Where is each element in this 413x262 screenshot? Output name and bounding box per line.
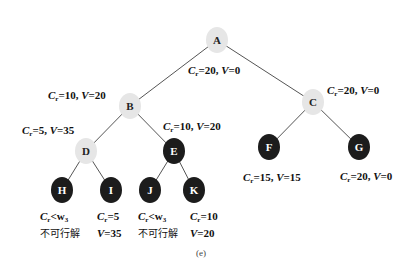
label-H: Cr<w3 不可行解: [40, 210, 80, 240]
label-J: Cr<w3 不可行解: [138, 210, 178, 240]
label-B: Cr=10, V=20: [48, 89, 106, 106]
label-D: Cr=5, V=35: [22, 124, 74, 141]
svg-text:A: A: [213, 34, 221, 46]
node-I: I: [100, 177, 122, 203]
node-B: B: [119, 93, 141, 119]
node-E: E: [163, 138, 185, 164]
label-K: Cr=10 V=20: [190, 210, 218, 240]
label-A: Cr=20, V=0: [188, 64, 240, 81]
svg-text:B: B: [126, 100, 134, 112]
svg-text:G: G: [355, 141, 364, 153]
label-E: Cr=10, V=20: [163, 120, 221, 137]
tree-edges: [62, 40, 359, 190]
svg-text:F: F: [266, 141, 273, 153]
node-C: C: [302, 89, 324, 115]
node-K: K: [183, 177, 205, 203]
label-C: Cr=20, V=0: [327, 84, 379, 101]
svg-text:D: D: [82, 145, 90, 157]
svg-text:E: E: [170, 145, 177, 157]
svg-text:I: I: [109, 184, 113, 196]
figure-caption: (e): [196, 248, 206, 258]
node-J: J: [139, 177, 161, 203]
label-F: Cr=15, V=15: [243, 171, 301, 188]
node-A: A: [206, 27, 228, 53]
node-H: H: [51, 177, 73, 203]
label-G: Cr=20, V=0: [340, 170, 392, 187]
svg-text:H: H: [58, 184, 67, 196]
svg-text:K: K: [190, 184, 199, 196]
node-F: F: [258, 134, 280, 160]
svg-text:C: C: [309, 96, 317, 108]
label-I: Cr=5 V=35: [97, 210, 122, 240]
svg-text:J: J: [147, 184, 153, 196]
node-D: D: [75, 138, 97, 164]
node-G: G: [348, 134, 370, 160]
